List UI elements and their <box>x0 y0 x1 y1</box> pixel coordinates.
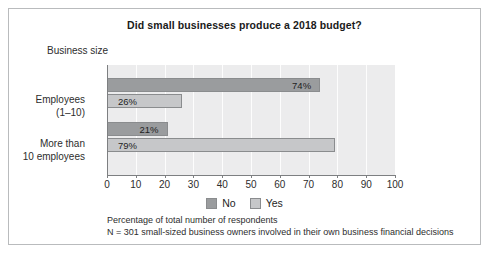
bar-employees-1-10-no[interactable]: 74% <box>107 78 320 92</box>
footnote-line-2: N = 301 small-sized business owners invo… <box>107 227 453 239</box>
bar-value-label: 21% <box>139 123 158 137</box>
gridline-80 <box>337 65 338 175</box>
bar-employees-1-10-yes[interactable]: 26% <box>107 94 182 108</box>
tick-mark-60 <box>280 175 281 178</box>
legend-swatch-no-icon <box>206 198 217 209</box>
legend-swatch-yes-icon <box>250 198 261 209</box>
y-axis-line <box>107 65 108 175</box>
tick-mark-70 <box>309 175 310 178</box>
x-tick-label-50: 50 <box>236 179 266 190</box>
bar-value-label: 79% <box>118 139 137 153</box>
x-tick-label-0: 0 <box>92 179 122 190</box>
category-label-line: (1–10) <box>0 107 85 120</box>
bar-more-than-10-yes[interactable]: 79% <box>107 138 335 152</box>
footnote-line-1: Percentage of total number of respondent… <box>107 215 453 227</box>
plot-area: 74% 26% 21% 79% <box>107 65 395 175</box>
chart-figure: Did small businesses produce a 2018 budg… <box>8 8 481 245</box>
tick-mark-30 <box>193 175 194 178</box>
tick-mark-80 <box>337 175 338 178</box>
chart-title: Did small businesses produce a 2018 budg… <box>9 19 480 31</box>
legend-label-yes: Yes <box>266 197 283 209</box>
category-label-more-than-10-employees: More than 10 employees <box>0 138 85 163</box>
tick-mark-20 <box>165 175 166 178</box>
axis-group-title: Business size <box>47 45 108 56</box>
tick-mark-40 <box>222 175 223 178</box>
legend-item-no[interactable]: No <box>206 197 235 209</box>
x-tick-label-100: 100 <box>380 179 410 190</box>
category-label-line: 10 employees <box>0 151 85 164</box>
x-tick-label-40: 40 <box>207 179 237 190</box>
x-tick-label-30: 30 <box>178 179 208 190</box>
bar-value-label: 26% <box>118 95 137 109</box>
chart-legend: No Yes <box>9 197 480 209</box>
x-tick-label-90: 90 <box>351 179 381 190</box>
bar-more-than-10-no[interactable]: 21% <box>107 122 168 136</box>
legend-label-no: No <box>222 197 235 209</box>
category-label-line: More than <box>0 138 85 151</box>
category-label-line: Employees <box>0 94 85 107</box>
x-tick-label-80: 80 <box>322 179 352 190</box>
tick-mark-0 <box>107 175 108 178</box>
tick-mark-10 <box>136 175 137 178</box>
gridline-90 <box>366 65 367 175</box>
tick-mark-90 <box>366 175 367 178</box>
x-tick-label-60: 60 <box>265 179 295 190</box>
tick-mark-50 <box>251 175 252 178</box>
x-tick-label-20: 20 <box>150 179 180 190</box>
chart-footnotes: Percentage of total number of respondent… <box>107 215 453 238</box>
x-tick-label-70: 70 <box>294 179 324 190</box>
x-tick-label-10: 10 <box>121 179 151 190</box>
legend-item-yes[interactable]: Yes <box>250 197 283 209</box>
bar-value-label: 74% <box>292 79 311 93</box>
category-label-employees-1-10: Employees (1–10) <box>0 94 85 119</box>
tick-mark-100 <box>395 175 396 178</box>
